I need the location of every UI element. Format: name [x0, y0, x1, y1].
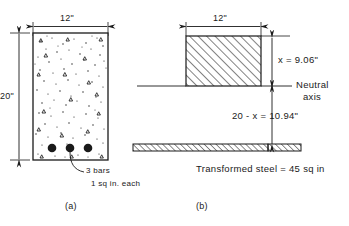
tension-depth-label: 20 - x = 10.94"	[232, 110, 298, 121]
rebar-dot	[48, 144, 57, 153]
rebar-count-label: 3 bars	[86, 166, 110, 175]
panel-b-group	[133, 22, 301, 151]
transformed-steel-plate	[133, 144, 268, 151]
panel-b-width-label: 12"	[213, 13, 227, 23]
rebar-area-label: 1 sq in. each	[91, 179, 140, 188]
rebar-dot	[66, 144, 75, 153]
panel-b-caption: (b)	[196, 201, 208, 211]
rebar-group	[48, 144, 93, 153]
transformed-steel-plate-right	[268, 144, 301, 151]
compression-depth-label: x = 9.06"	[278, 54, 318, 65]
neutral-axis-label-line2: axis	[303, 91, 321, 102]
panel-a-group	[10, 22, 108, 172]
neutral-axis-label-line1: Neutral	[296, 79, 329, 90]
compression-block	[186, 36, 261, 86]
panel-a-caption: (a)	[65, 201, 77, 211]
rebar-dot	[84, 144, 93, 153]
transformed-steel-label: Transformed steel = 45 sq in	[196, 163, 325, 174]
engineering-figure: 12" 20" 3 bars 1 sq in. each (a) 12" x =…	[0, 0, 349, 226]
concrete-section-outline	[33, 33, 108, 160]
panel-b-width-dimension	[186, 22, 261, 36]
panel-a-width-label: 12"	[60, 13, 74, 23]
panel-a-depth-label: 20"	[0, 91, 14, 101]
